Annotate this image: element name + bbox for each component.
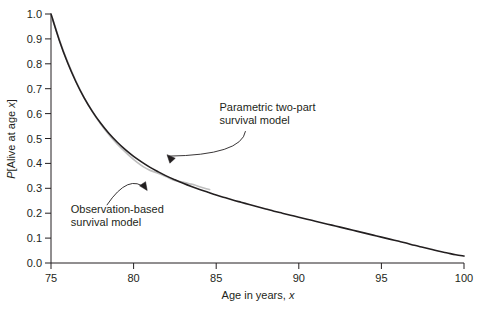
y-tick-label: 0.5 (27, 133, 42, 145)
x-tick-label: 95 (375, 272, 387, 284)
y-tick-label: 0.3 (27, 182, 42, 194)
x-tick-label: 100 (455, 272, 473, 284)
parametric-label-text-line: Parametric two-part (220, 101, 316, 113)
survival-curve-figure: 0.00.10.20.30.40.50.60.70.80.91.0 758085… (0, 0, 488, 309)
y-tick-label: 0.0 (27, 257, 42, 269)
parametric-label-text-line: survival model (220, 114, 290, 126)
y-axis-title: P[Alive at age x] (5, 99, 17, 179)
y-tick-label: 0.6 (27, 108, 42, 120)
y-tick-label: 0.1 (27, 232, 42, 244)
y-tick-label: 0.7 (27, 83, 42, 95)
y-tick-label: 0.9 (27, 33, 42, 45)
y-tick-label: 1.0 (27, 8, 42, 20)
x-tick-label: 85 (210, 272, 222, 284)
observation-label-text-line: survival model (71, 216, 141, 228)
y-tick-label: 0.4 (27, 157, 42, 169)
y-tick-label: 0.8 (27, 58, 42, 70)
x-tick-label: 75 (45, 272, 57, 284)
x-tick-label: 90 (293, 272, 305, 284)
x-tick-label: 80 (127, 272, 139, 284)
observation-label-text-line: Observation-based (71, 203, 164, 215)
chart-canvas: 0.00.10.20.30.40.50.60.70.80.91.0 758085… (0, 0, 488, 309)
x-axis-title: Age in years, x (222, 289, 295, 301)
y-tick-label: 0.2 (27, 207, 42, 219)
